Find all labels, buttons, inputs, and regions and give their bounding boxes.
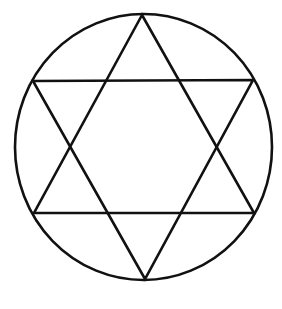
hexagram-diagram	[0, 0, 282, 309]
outer-circle	[15, 14, 272, 280]
downward-triangle	[33, 80, 253, 279]
upward-triangle	[34, 15, 254, 213]
